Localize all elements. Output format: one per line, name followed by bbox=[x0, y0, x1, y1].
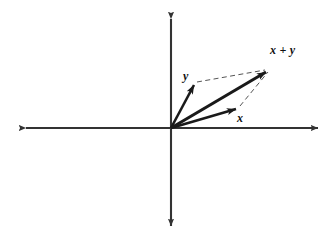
figure-canvas bbox=[0, 0, 333, 243]
vector-addition-figure: y x x + y bbox=[0, 0, 333, 243]
vector-label-x: x bbox=[237, 112, 243, 124]
vector-label-x-plus-y: x + y bbox=[270, 44, 295, 56]
vector-label-y: y bbox=[183, 70, 189, 82]
construction-line-x-to-sum bbox=[240, 72, 268, 106]
